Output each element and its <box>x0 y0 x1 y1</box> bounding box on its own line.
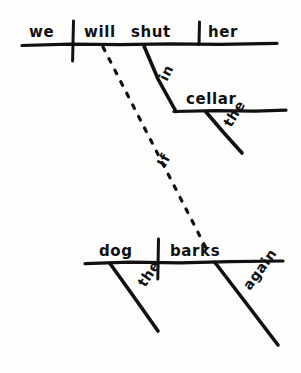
subordinating-connector-group: If <box>103 47 206 248</box>
word-will: will <box>84 23 116 41</box>
word-dog: dog <box>99 242 133 260</box>
word-we: we <box>29 23 54 41</box>
word-shut: shut <box>131 23 171 41</box>
prepositional-phrase-group: in cellar the <box>144 46 286 153</box>
word-her: her <box>208 23 238 41</box>
subordinating-conjunction-dotted-line <box>103 47 206 248</box>
main-verb-object-divider <box>199 22 200 45</box>
main-subject-verb-divider <box>73 21 74 61</box>
sentence-diagram-canvas: we will shut her in cellar the <box>0 0 301 373</box>
subordinate-clause-group: dog barks the again <box>85 239 283 345</box>
sentence-diagram-page: we will shut her in cellar the <box>0 0 301 373</box>
main-clause-baseline <box>22 43 277 45</box>
word-barks: barks <box>170 242 220 260</box>
word-again: again <box>239 246 279 293</box>
